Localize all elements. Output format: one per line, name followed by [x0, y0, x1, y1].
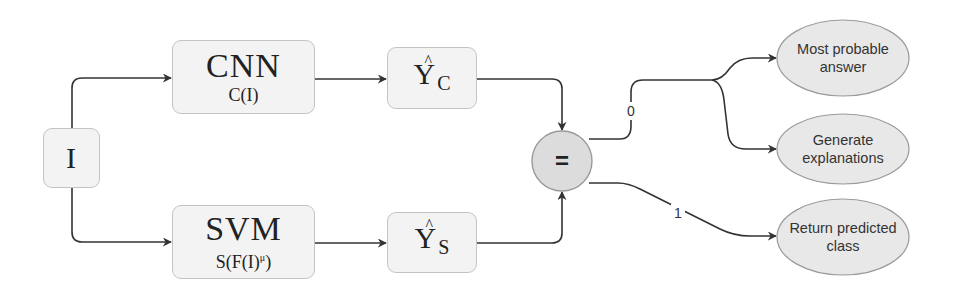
input-label: I [66, 141, 77, 175]
svm-formula-base: S(F(I) [216, 252, 260, 272]
outcome-class-line1: Return predicted [777, 219, 909, 237]
edge-input-to-svm [72, 188, 171, 242]
hat-icon: ^ [426, 210, 434, 240]
outcome-label-explanations: Generate explanations [777, 131, 909, 167]
yc-subscript: C [437, 72, 450, 94]
edge-label-1: 1 [674, 205, 682, 221]
ys-variable: ^ YS [415, 223, 450, 262]
cnn-node: CNN C(I) [172, 40, 315, 114]
outcome-label-class: Return predicted class [777, 219, 909, 255]
compare-label: = [555, 147, 569, 174]
cnn-title: CNN [206, 49, 281, 83]
input-node: I [43, 128, 100, 188]
outcome-answer-line2: answer [777, 58, 909, 76]
cnn-formula: C(I) [229, 85, 259, 105]
svm-title: SVM [205, 212, 282, 246]
svm-node: SVM S(F(I)μ) [172, 205, 315, 279]
outcome-explanations-line1: Generate [777, 131, 909, 149]
svm-formula-close: ) [265, 252, 271, 272]
outcome-explanations-line2: explanations [777, 149, 909, 167]
edge-branch-0-to-explanations [712, 80, 776, 149]
flow-diagram: 0 1 = Most probable answer Generate expl… [0, 0, 955, 291]
hat-icon: ^ [424, 46, 432, 76]
outcome-class-line2: class [777, 237, 909, 255]
outcome-label-answer: Most probable answer [777, 40, 909, 76]
edge-branch-0-to-answer [712, 58, 776, 80]
edge-ys-to-compare [476, 192, 562, 243]
yc-variable: ^ YC [413, 59, 450, 98]
outcome-answer-line1: Most probable [777, 40, 909, 58]
edge-input-to-cnn [72, 78, 171, 128]
ys-subscript: S [438, 236, 449, 258]
edge-yc-to-compare [477, 79, 562, 130]
svm-formula: S(F(I)μ) [216, 248, 271, 272]
edge-branch-0 [589, 80, 712, 139]
yc-node: ^ YC [387, 47, 477, 109]
edge-label-0: 0 [627, 103, 635, 119]
ys-node: ^ YS [387, 212, 477, 273]
